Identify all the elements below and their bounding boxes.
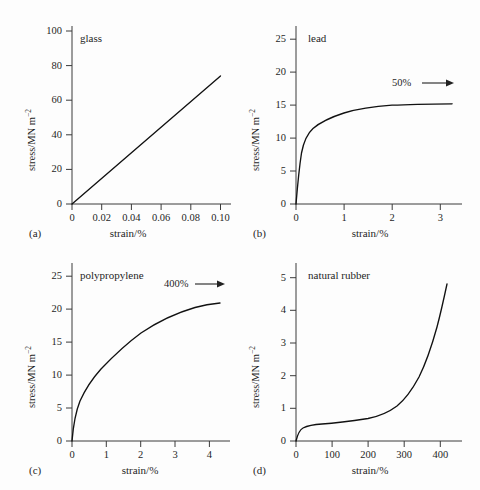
y-tick-label-a-60: 60 [40,95,62,106]
x-axis-label-d: strain/% [352,465,389,476]
plot-title-b: lead [308,33,326,44]
x-axis-label-a: strain/% [110,228,147,239]
y-tick-label-a-80: 80 [40,61,62,72]
y-axis-label-c-text: stress/MN m [26,354,37,408]
y-tick-label-c-15: 15 [38,337,62,348]
panel-a-glass: glass (a) stress/MN m−2 strain/% 0 20 40… [0,0,240,245]
y-axis-label-c-exponent: −2 [24,346,33,354]
x-tick-label-c-2: 2 [138,450,143,461]
x-tick-label-d-0: 0 [293,450,298,461]
y-tick-label-b-25: 25 [262,34,286,45]
panel-b-lead: lead (b) stress/MN m−2 strain/% 50% 0 5 … [240,0,480,245]
panel-tag-a: (a) [29,228,41,239]
panel-d-natural-rubber: natural rubber (d) stress/MN m−2 strain/… [240,245,480,490]
annotation-arrow-head-c [217,281,225,288]
x-axis-label-b: strain/% [352,228,389,239]
y-axis-label-b-exponent: −2 [248,109,257,117]
y-tick-label-a-0: 0 [40,199,62,210]
y-tick-label-d-1: 1 [266,403,286,414]
y-tick-label-a-40: 40 [40,130,62,141]
y-tick-label-c-10: 10 [38,370,62,381]
y-axis-label-a: stress/MN m−2 [26,109,37,171]
x-tick-label-d-100: 100 [324,450,340,461]
y-tick-label-c-5: 5 [42,403,62,414]
x-tick-label-b-1: 1 [341,213,346,224]
stress-strain-figure: glass (a) stress/MN m−2 strain/% 0 20 40… [0,0,480,490]
y-tick-label-d-3: 3 [266,338,286,349]
y-tick-label-b-10: 10 [262,133,286,144]
x-tick-label-a-008: 0.08 [182,213,200,224]
x-tick-label-c-3: 3 [172,450,177,461]
panel-tag-b: (b) [253,228,266,239]
x-tick-label-a-004: 0.04 [122,213,140,224]
x-tick-label-a-010: 0.10 [211,213,229,224]
x-tick-label-d-200: 200 [360,450,376,461]
curve-natural-rubber [296,284,447,441]
y-axis-label-d-exponent: −2 [248,346,257,354]
y-tick-label-b-20: 20 [262,67,286,78]
y-tick-label-c-0: 0 [42,436,62,447]
x-tick-label-b-2: 2 [390,213,395,224]
y-tick-label-a-20: 20 [40,164,62,175]
x-tick-label-c-0: 0 [69,450,74,461]
x-tick-label-a-002: 0.02 [93,213,111,224]
curve-lead [296,104,452,204]
panel-c-polypropylene: polypropylene (c) stress/MN m−2 strain/%… [0,245,240,490]
x-tick-label-a-0: 0 [69,213,74,224]
curve-polypropylene [72,303,220,441]
y-tick-label-d-4: 4 [266,305,286,316]
plot-title-d: natural rubber [308,270,370,281]
x-tick-label-c-1: 1 [104,450,109,461]
y-tick-label-b-5: 5 [266,166,286,177]
y-tick-label-a-100: 100 [36,26,62,37]
y-tick-label-d-2: 2 [266,371,286,382]
panel-tag-c: (c) [29,465,41,476]
y-tick-label-d-5: 5 [266,273,286,284]
x-axis-label-c: strain/% [122,465,159,476]
annotation-arrow-head-b [446,80,454,87]
plot-title-c: polypropylene [80,270,144,281]
plot-title-a: glass [80,33,102,44]
y-axis-label-d: stress/MN m−2 [250,346,261,408]
x-tick-label-b-3: 3 [438,213,443,224]
x-tick-label-d-400: 400 [432,450,448,461]
y-tick-label-b-15: 15 [262,100,286,111]
y-axis-label-a-exponent: −2 [24,109,33,117]
x-tick-label-c-4: 4 [207,450,212,461]
y-tick-label-b-0: 0 [266,199,286,210]
y-axis-label-b-text: stress/MN m [250,117,261,171]
panel-tag-d: (d) [253,465,266,476]
y-tick-label-c-20: 20 [38,304,62,315]
annotation-label-c: 400% [164,279,189,290]
annotation-label-b: 50% [392,78,411,89]
y-tick-label-c-25: 25 [38,271,62,282]
x-tick-label-a-006: 0.06 [152,213,170,224]
x-tick-label-b-0: 0 [293,213,298,224]
x-tick-label-d-300: 300 [396,450,412,461]
y-axis-label-a-text: stress/MN m [26,117,37,171]
y-axis-label-b: stress/MN m−2 [250,109,261,171]
y-axis-label-c: stress/MN m−2 [26,346,37,408]
y-tick-label-d-0: 0 [266,436,286,447]
y-axis-label-d-text: stress/MN m [250,354,261,408]
curve-glass [72,76,221,204]
